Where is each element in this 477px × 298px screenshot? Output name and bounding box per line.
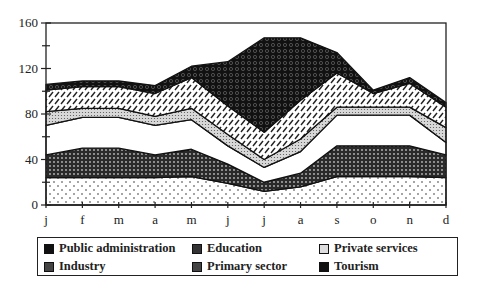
tourism-swatch-icon xyxy=(319,262,329,272)
legend-label: Education xyxy=(207,241,262,256)
x-tick-label: a xyxy=(298,212,304,227)
legend-label: Public administration xyxy=(59,241,175,256)
legend-label: Primary sector xyxy=(207,259,287,274)
y-tick-label: 0 xyxy=(32,197,39,212)
legend-item-public-administration: Public administration xyxy=(44,241,175,256)
x-tick-label: s xyxy=(334,212,339,227)
primary-sector-swatch-icon xyxy=(192,262,202,272)
x-tick-label: f xyxy=(80,212,85,227)
legend-label: Private services xyxy=(334,241,418,256)
x-tick-label: o xyxy=(370,212,377,227)
y-tick-label: 80 xyxy=(25,106,38,121)
x-tick-label: a xyxy=(152,212,158,227)
industry-swatch-icon xyxy=(44,262,54,272)
x-tick-label: j xyxy=(225,212,230,227)
public-administration-swatch-icon xyxy=(44,244,54,254)
stacked-area-chart: 04080120160 jfmamjjasond xyxy=(0,0,477,236)
legend-item-tourism: Tourism xyxy=(319,259,379,274)
x-tick-label: j xyxy=(261,212,266,227)
private-services-swatch-icon xyxy=(319,244,329,254)
area-layers xyxy=(46,38,446,205)
legend-item-education: Education xyxy=(192,241,262,256)
y-tick-label: 160 xyxy=(19,15,39,30)
legend-item-private-services: Private services xyxy=(319,241,418,256)
education-swatch-icon xyxy=(192,244,202,254)
y-tick-label: 120 xyxy=(19,61,39,76)
legend-item-primary-sector: Primary sector xyxy=(192,259,287,274)
x-tick-label: j xyxy=(43,212,48,227)
x-tick-label: m xyxy=(186,212,196,227)
x-tick-label: n xyxy=(406,212,413,227)
legend-label: Tourism xyxy=(334,259,379,274)
legend: Public administration Education Private … xyxy=(37,237,458,276)
legend-item-industry: Industry xyxy=(44,259,106,274)
x-tick-label: m xyxy=(114,212,124,227)
x-axis: jfmamjjasond xyxy=(43,202,450,227)
x-tick-label: d xyxy=(443,212,450,227)
legend-label: Industry xyxy=(59,259,106,274)
y-tick-label: 40 xyxy=(25,152,38,167)
